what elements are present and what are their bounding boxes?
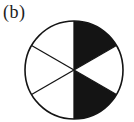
- fraction-circle-figure: (b): [0, 0, 134, 122]
- fraction-circle-diagram: [24, 20, 124, 120]
- figure-label: (b): [3, 1, 26, 23]
